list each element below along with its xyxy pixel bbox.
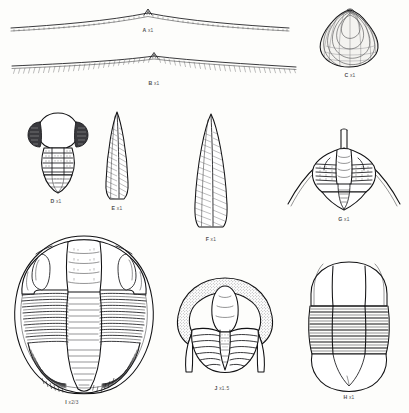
specimen-h xyxy=(299,258,399,394)
specimen-b-fringe xyxy=(13,57,295,73)
caption-d: Dx1 xyxy=(50,198,61,204)
specimen-h-thorax xyxy=(309,306,390,354)
caption-e-mag: x1 xyxy=(117,206,123,211)
caption-h-mag: x1 xyxy=(349,395,355,400)
specimen-d-cephalon xyxy=(28,113,88,148)
specimen-j-pygidium xyxy=(192,328,259,372)
specimen-g-occipital-spine xyxy=(341,129,347,150)
caption-f: Fx1 xyxy=(206,236,217,242)
caption-f-letter: F xyxy=(206,236,209,242)
specimen-h-pygidium xyxy=(311,354,386,392)
specimen-d-thorax xyxy=(42,148,75,175)
specimen-g-cephalon xyxy=(312,148,375,192)
specimen-i-cephalon xyxy=(22,240,146,294)
caption-b: Bx1 xyxy=(148,80,159,86)
caption-e: Ex1 xyxy=(112,205,123,211)
caption-g-mag: x1 xyxy=(344,217,350,222)
caption-c: Cx1 xyxy=(344,72,355,78)
caption-i-letter: I xyxy=(65,399,67,405)
caption-j-letter: J xyxy=(215,385,218,391)
caption-a-letter: A xyxy=(142,27,146,33)
caption-h-letter: H xyxy=(343,394,347,400)
caption-c-mag: x1 xyxy=(350,73,356,78)
specimen-b xyxy=(8,50,300,80)
caption-a: Ax1 xyxy=(142,27,153,33)
specimen-f xyxy=(185,112,237,230)
caption-a-mag: x1 xyxy=(148,28,154,33)
specimen-h-cephalon xyxy=(311,262,387,306)
caption-b-mag: x1 xyxy=(154,81,160,86)
caption-h: Hx1 xyxy=(343,394,354,400)
specimen-e-spine xyxy=(106,112,128,200)
caption-j-mag: x1.5 xyxy=(219,386,229,391)
caption-f-mag: x1 xyxy=(211,237,217,242)
caption-d-letter: D xyxy=(50,198,54,204)
specimen-b-outline xyxy=(12,53,296,70)
caption-b-letter: B xyxy=(148,80,152,86)
caption-j: Jx1.5 xyxy=(215,385,230,391)
specimen-j-glabella xyxy=(212,286,238,332)
figure-plate: Ax1 Bx1 xyxy=(0,0,409,413)
caption-i: Ix2/3 xyxy=(65,399,78,405)
specimen-c xyxy=(316,8,386,70)
specimen-d xyxy=(20,110,96,196)
specimen-g xyxy=(282,128,406,216)
specimen-j xyxy=(166,272,284,384)
caption-g: Gx1 xyxy=(338,216,349,222)
specimen-f-spine xyxy=(195,114,227,228)
caption-e-letter: E xyxy=(112,205,116,211)
caption-i-mag: x2/3 xyxy=(68,400,78,405)
caption-d-mag: x1 xyxy=(56,199,62,204)
specimen-i xyxy=(6,232,162,398)
caption-g-letter: G xyxy=(338,216,342,222)
specimen-c-shell xyxy=(320,9,378,69)
specimen-d-pygidium xyxy=(44,175,72,193)
caption-c-letter: C xyxy=(344,72,348,78)
specimen-e xyxy=(97,110,137,202)
